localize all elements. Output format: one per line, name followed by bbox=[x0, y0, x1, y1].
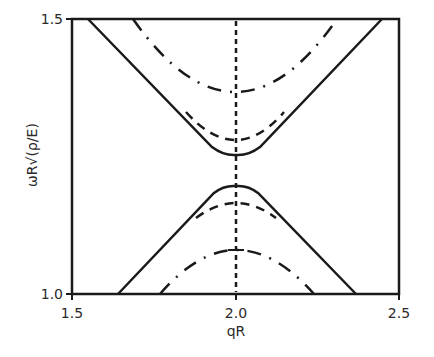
dashdot-upper-curve bbox=[133, 19, 337, 92]
y-axis-title: ωR√(ρ/E) bbox=[24, 123, 40, 187]
y-tick-label-bottom: 1.0 bbox=[41, 286, 63, 302]
x-tick-label-right: 2.5 bbox=[388, 305, 410, 321]
y-tick-label-top: 1.5 bbox=[41, 11, 63, 27]
x-axis-title: qR bbox=[227, 323, 246, 339]
chart: 1.5 1.0 1.5 2.0 2.5 qR ωR√(ρ/E) bbox=[0, 0, 434, 357]
x-tick-label-mid: 2.0 bbox=[225, 305, 247, 321]
x-tick-label-left: 1.5 bbox=[61, 305, 83, 321]
